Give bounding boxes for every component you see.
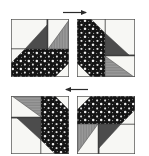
block-top-left xyxy=(11,19,69,77)
block-bottom-right xyxy=(77,96,135,154)
quilt-diagram xyxy=(0,0,149,156)
quilt-canvas xyxy=(0,0,149,156)
block-bottom-left xyxy=(11,96,69,154)
block-top-right xyxy=(77,19,135,77)
